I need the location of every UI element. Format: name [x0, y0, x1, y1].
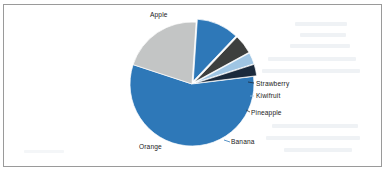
pie-chart-canvas — [0, 0, 386, 172]
chart-screenshot: Apple Strawberry Kiwifruit Pineapple Ban… — [0, 0, 386, 172]
pie-chart: Apple Strawberry Kiwifruit Pineapple Ban… — [0, 0, 386, 172]
pie-label-kiwifruit: Kiwifruit — [256, 93, 280, 100]
pie-label-apple: Apple — [150, 12, 168, 19]
pie-label-banana: Banana — [231, 139, 255, 146]
pie-label-strawberry: Strawberry — [256, 81, 289, 88]
pie-label-pineapple: Pineapple — [251, 110, 282, 117]
leader-line-banana — [224, 140, 230, 142]
pie-label-orange: Orange — [139, 144, 162, 151]
